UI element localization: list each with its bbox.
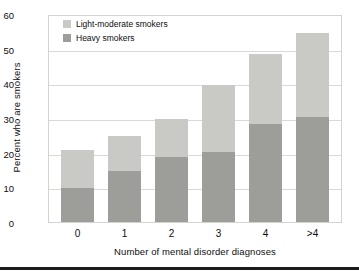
legend-swatch-icon xyxy=(63,20,71,28)
bar-segment-heavy xyxy=(155,157,188,222)
y-tick-label: 10 xyxy=(0,184,14,194)
bar-group xyxy=(61,150,94,222)
x-tick-label: 4 xyxy=(249,228,282,239)
bar-series-container xyxy=(49,16,341,222)
legend-item-light-moderate-smokers: Light-moderate smokers xyxy=(63,18,168,29)
plot-area xyxy=(48,15,342,223)
legend-swatch-icon xyxy=(63,34,71,42)
x-tick-label: >4 xyxy=(296,228,329,239)
x-tick-label: 2 xyxy=(155,228,188,239)
bar-segment-light-moderate xyxy=(296,33,329,117)
bar-segment-heavy xyxy=(108,171,141,223)
bar-group xyxy=(108,136,141,222)
y-tick-label: 40 xyxy=(0,80,14,90)
bar-group xyxy=(296,33,329,222)
y-tick-label: 50 xyxy=(0,46,14,56)
bar-segment-heavy xyxy=(61,188,94,222)
x-tick-label: 0 xyxy=(61,228,94,239)
bar-segment-heavy xyxy=(202,152,235,222)
legend-item-heavy-smokers: Heavy smokers xyxy=(63,32,168,43)
bar-segment-light-moderate xyxy=(249,54,282,124)
x-tick-label: 3 xyxy=(202,228,235,239)
bar-segment-light-moderate xyxy=(108,136,141,170)
bar-segment-light-moderate xyxy=(202,85,235,152)
bar-group xyxy=(249,54,282,222)
y-tick-label: 30 xyxy=(0,115,14,125)
bar-segment-light-moderate xyxy=(61,150,94,188)
bar-segment-heavy xyxy=(249,124,282,222)
bar-group xyxy=(202,85,235,222)
y-tick-label: 60 xyxy=(0,11,14,21)
y-tick-label: 0 xyxy=(0,219,14,229)
x-tick-label: 1 xyxy=(108,228,141,239)
chart-legend: Light-moderate smokers Heavy smokers xyxy=(63,18,168,46)
chart-figure: Percent who are smokers 60 50 40 30 20 1… xyxy=(0,0,359,278)
legend-label: Heavy smokers xyxy=(76,33,135,43)
bottom-divider xyxy=(0,267,359,270)
x-axis-title: Number of mental disorder diagnoses xyxy=(48,246,342,257)
y-tick-label: 20 xyxy=(0,150,14,160)
bar-segment-light-moderate xyxy=(155,119,188,157)
bar-segment-heavy xyxy=(296,117,329,222)
legend-label: Light-moderate smokers xyxy=(76,19,168,29)
bar-group xyxy=(155,119,188,222)
